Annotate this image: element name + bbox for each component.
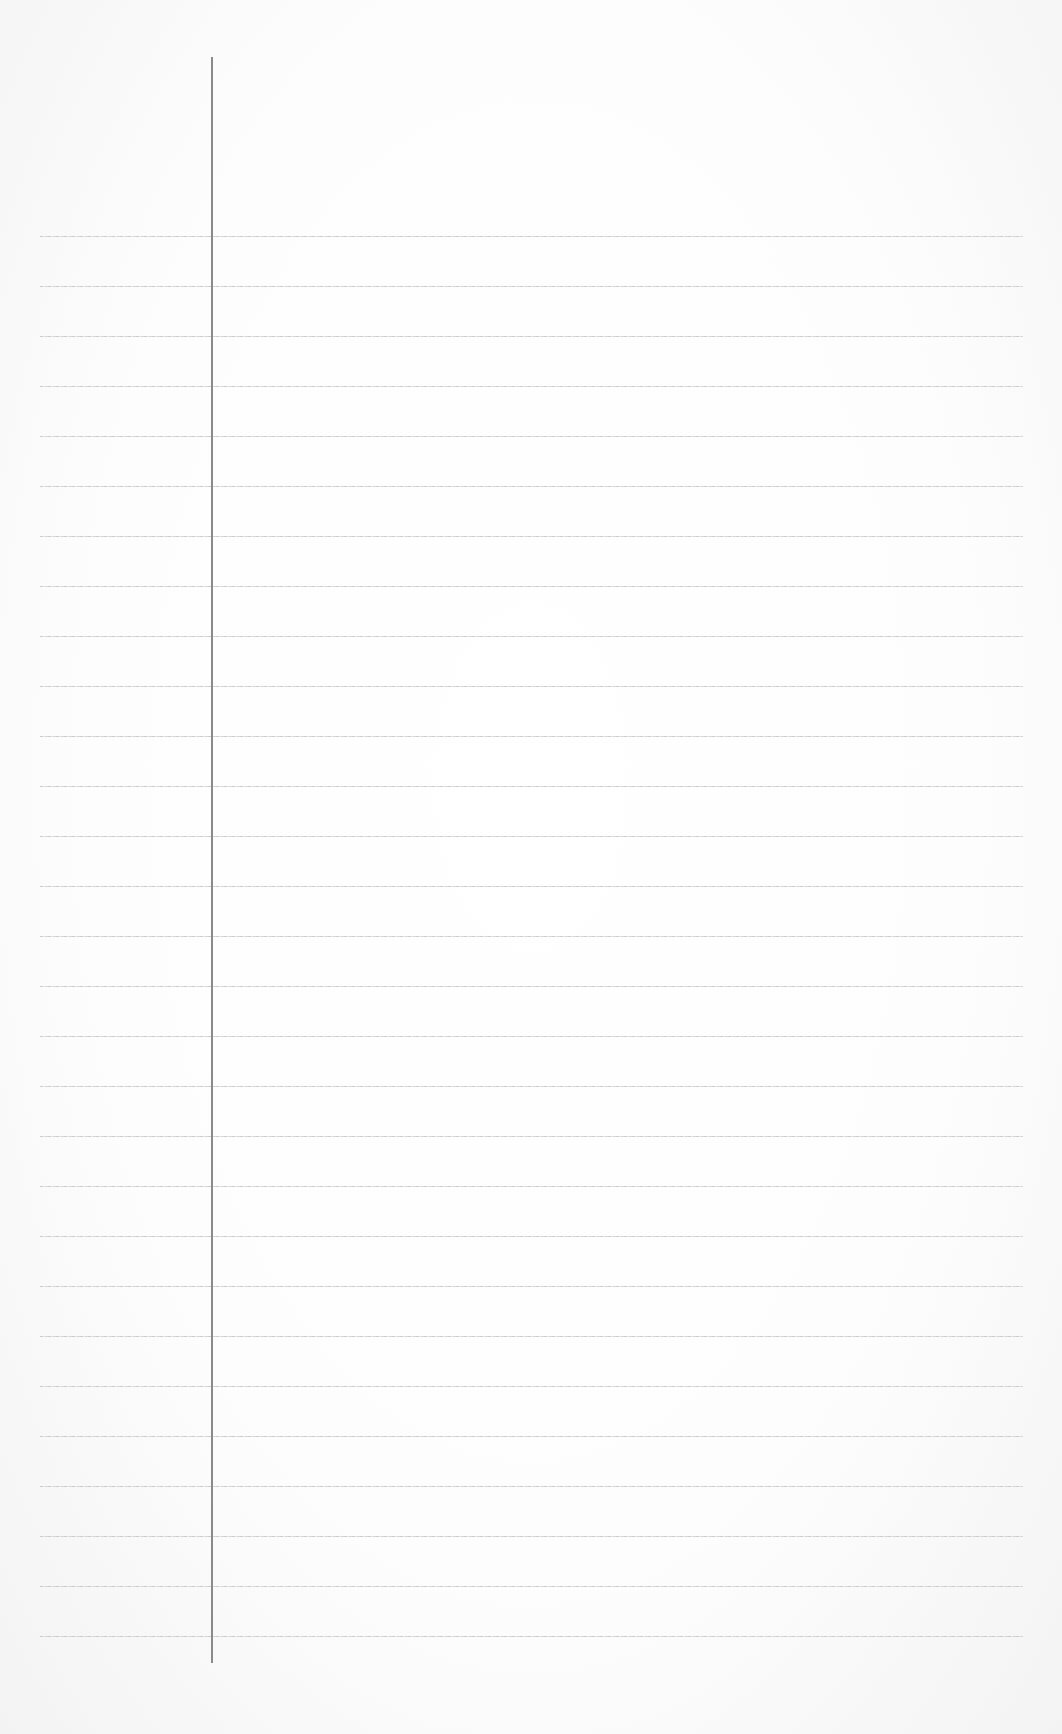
ruled-line — [40, 986, 1023, 987]
ruled-line — [40, 736, 1023, 737]
lined-paper-sheet — [0, 0, 1062, 1734]
ruled-line — [40, 686, 1023, 687]
ruled-line — [40, 486, 1023, 487]
ruled-line — [40, 236, 1023, 237]
ruled-line — [40, 1586, 1023, 1587]
ruled-line — [40, 1536, 1023, 1537]
ruled-line — [40, 1136, 1023, 1137]
ruled-line — [40, 636, 1023, 637]
ruled-line — [40, 386, 1023, 387]
ruled-line — [40, 1636, 1023, 1637]
ruled-line — [40, 1086, 1023, 1087]
ruled-line — [40, 1036, 1023, 1037]
ruled-line — [40, 336, 1023, 337]
ruled-line — [40, 586, 1023, 587]
ruled-line — [40, 786, 1023, 787]
ruled-line — [40, 886, 1023, 887]
ruled-line — [40, 1486, 1023, 1487]
ruled-line — [40, 1436, 1023, 1437]
ruled-line — [40, 1386, 1023, 1387]
ruled-line — [40, 536, 1023, 537]
ruled-line — [40, 286, 1023, 287]
ruled-line — [40, 1236, 1023, 1237]
ruled-line — [40, 936, 1023, 937]
ruled-line — [40, 836, 1023, 837]
ruled-line — [40, 436, 1023, 437]
margin-line — [211, 57, 213, 1663]
ruled-line — [40, 1186, 1023, 1187]
ruled-line — [40, 1286, 1023, 1287]
ruled-line — [40, 1336, 1023, 1337]
